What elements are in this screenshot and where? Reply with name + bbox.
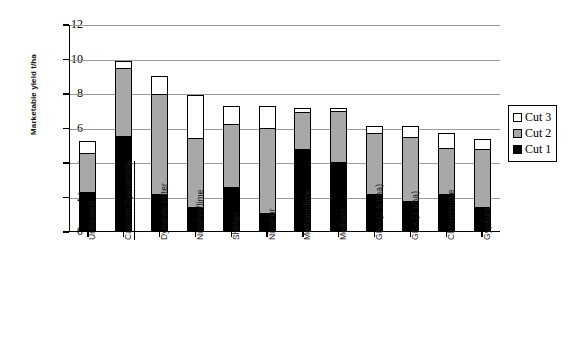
legend-label: Cut 3 [525,111,551,123]
x-label-slot: GBA (1 t/ha) [392,240,428,350]
x-axis-label-8: GBA (2.5 l/ha) [374,184,384,240]
legend-label: Cut 1 [525,143,551,155]
x-axis-label-11: Gypsum [482,207,492,240]
bar-segment-cut-2 [474,149,491,209]
bar-segment-cut-2 [294,112,311,150]
x-label-slot: Gypsum [464,240,500,350]
bar-slot [249,25,285,231]
x-label-slot: Nitrabor [249,240,285,350]
x-label-slot: Dynamic Lifter [141,240,177,350]
x-axis-label-10: Clubrol/trace [446,189,456,240]
x-axis-label-0: Untreated [87,201,97,240]
x-axis-label-6: Metham/lime [302,189,312,240]
bar-segment-cut-2 [330,111,347,164]
legend-item-cut-1[interactable]: Cut 1 [513,141,551,157]
x-label-slot: Shirlan [213,240,249,350]
legend-item-cut-3[interactable]: Cut 3 [513,109,551,125]
chart-legend: Cut 3Cut 2Cut 1 [508,105,557,162]
x-axis-category-labels: UntreatedCalcium CyanamideDynamic Lifter… [69,240,500,350]
x-label-slot: Metham/lime [285,240,321,350]
legend-item-cut-2[interactable]: Cut 2 [513,125,551,141]
bar-segment-cut-2 [151,94,168,195]
bar-segment-cut-3 [187,95,204,139]
legend-swatch-icon [513,145,522,154]
bar-segment-cut-3 [259,106,276,129]
legend-label: Cut 2 [525,127,551,139]
x-label-slot: Calcium Cyanamide [105,240,141,350]
x-label-slot: Untreated [69,240,105,350]
bar-segment-cut-3 [438,133,455,149]
bar-segment-cut-3 [223,106,240,125]
x-axis-label-4: Shirlan [231,212,241,240]
bar-slot [464,25,500,231]
bar-slot [321,25,357,231]
x-axis-label-5: Nitrabor [267,208,277,240]
chart-container: Marketable yield t/ha 024681012 Untreate… [0,0,588,353]
x-label-slot: GBA (2.5 l/ha) [356,240,392,350]
bar-slot [213,25,249,231]
x-axis-label-7: Metham [338,208,348,240]
x-axis-label-1: Calcium Cyanamide [123,161,135,240]
x-label-slot: Clubrol/trace [428,240,464,350]
legend-swatch-icon [513,129,522,138]
bar-segment-cut-2 [259,128,276,214]
bar-segment-cut-2 [115,68,132,137]
bar-segment-cut-3 [151,76,168,95]
bar-segment-cut-2 [223,124,240,189]
x-axis-label-2: Dynamic Lifter [159,183,169,240]
y-axis-title: Marketable yield t/ha [29,15,38,175]
x-label-slot: Nitrabor/lime [177,240,213,350]
bar-segment-cut-2 [79,153,96,194]
x-label-slot: Metham [320,240,356,350]
x-axis-label-3: Nitrabor/lime [195,189,205,240]
legend-swatch-icon [513,113,522,122]
x-axis-label-9: GBA (1 t/ha) [410,191,420,240]
